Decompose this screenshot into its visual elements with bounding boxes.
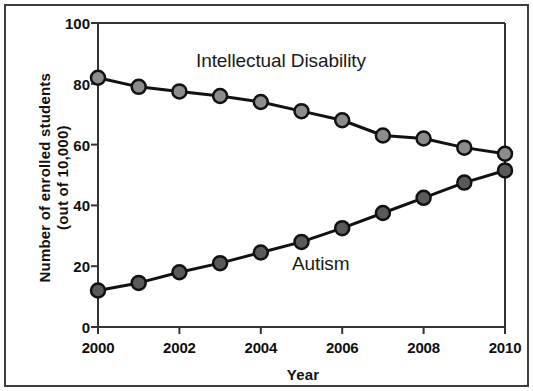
x-tick-label: 2006	[326, 339, 359, 356]
series-intellectual-disability	[91, 71, 512, 161]
data-point-marker	[254, 246, 268, 260]
data-point-marker	[254, 95, 268, 109]
data-point-marker	[213, 89, 227, 103]
data-point-marker	[295, 235, 309, 249]
data-point-marker	[417, 191, 431, 205]
y-axis-title: Number of enrolled students (out of 10,0…	[36, 28, 71, 328]
data-point-marker	[213, 256, 227, 270]
data-point-marker	[376, 206, 390, 220]
x-tick-label: 2004	[245, 339, 278, 356]
x-axis-title: Year	[98, 366, 508, 383]
data-point-marker	[498, 147, 512, 161]
series-annotation-intellectual-disability: Intellectual Disability	[196, 50, 366, 72]
data-point-marker	[457, 176, 471, 190]
series-autism	[91, 163, 512, 297]
data-point-marker	[295, 104, 309, 118]
data-point-marker	[335, 113, 349, 127]
data-point-marker	[376, 128, 390, 142]
data-point-marker	[457, 141, 471, 155]
x-tick-label: 2010	[489, 339, 522, 356]
x-tick-label: 2000	[82, 339, 115, 356]
data-point-marker	[132, 276, 146, 290]
y-axis-tick-marks	[91, 23, 98, 327]
chart-figure: 020406080100 200020022004200620082010 Nu…	[0, 0, 533, 391]
data-point-marker	[498, 163, 512, 177]
data-point-marker	[91, 284, 105, 298]
x-axis-tick-marks	[98, 327, 505, 334]
series-annotation-autism: Autism	[292, 253, 349, 275]
data-point-marker	[172, 265, 186, 279]
y-axis-title-line-2: (out of 10,000)	[54, 28, 72, 328]
data-point-marker	[335, 221, 349, 235]
data-point-marker	[91, 71, 105, 85]
x-tick-label: 2008	[407, 339, 440, 356]
y-axis-title-line-1: Number of enrolled students	[36, 28, 54, 328]
x-tick-label: 2002	[163, 339, 196, 356]
data-point-marker	[132, 80, 146, 94]
data-point-marker	[172, 84, 186, 98]
data-point-marker	[417, 132, 431, 146]
